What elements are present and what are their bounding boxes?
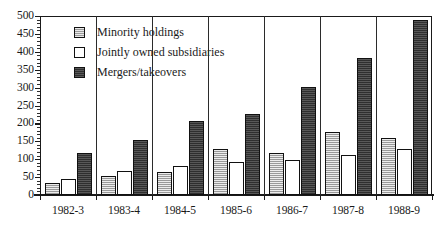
legend-label-minority-holdings: Minority holdings [97, 25, 184, 39]
bar-mergers-1985-6 [245, 114, 260, 195]
legend-label-mergers-takeovers: Mergers/takeovers [97, 65, 186, 79]
x-group-label: 1987-8 [320, 204, 376, 216]
bar-mergers-1983-4 [133, 140, 148, 195]
legend-item-mergers-takeovers: Mergers/takeovers [74, 64, 304, 83]
x-group-label: 1982-3 [40, 204, 96, 216]
bar-jointly-1982-3 [61, 179, 76, 195]
bar-mergers-1982-3 [77, 153, 92, 195]
legend-swatch-minority-holdings [74, 27, 85, 38]
x-group-label: 1988-9 [376, 204, 432, 216]
group-divider [320, 16, 321, 195]
x-group-label: 1983-4 [96, 204, 152, 216]
bar-minority-1988-9 [381, 138, 396, 195]
bar-mergers-1984-5 [189, 121, 204, 195]
legend-swatch-mergers-takeovers [74, 67, 85, 78]
bar-mergers-1987-8 [357, 58, 372, 195]
bar-jointly-1983-4 [117, 171, 132, 195]
group-divider [264, 16, 265, 195]
bar-jointly-1987-8 [341, 155, 356, 195]
group-divider [208, 16, 209, 195]
group-divider [376, 16, 377, 195]
bar-minority-1985-6 [213, 149, 228, 195]
bar-minority-1983-4 [101, 176, 116, 195]
legend-swatch-jointly-owned-subsidiaries [74, 47, 85, 58]
legend-item-jointly-owned-subsidiaries: Jointly owned subsidiaries [74, 44, 304, 63]
legend-item-minority-holdings: Minority holdings [74, 24, 304, 43]
bar-minority-1987-8 [325, 132, 340, 195]
bar-minority-1982-3 [45, 183, 60, 195]
bar-minority-1984-5 [157, 172, 172, 195]
bar-jointly-1984-5 [173, 166, 188, 195]
bar-jointly-1988-9 [397, 149, 412, 195]
bar-mergers-1988-9 [413, 20, 428, 195]
bar-jointly-1986-7 [285, 160, 300, 195]
legend-label-jointly-owned-subsidiaries: Jointly owned subsidiaries [97, 45, 224, 59]
x-group-label: 1985-6 [208, 204, 264, 216]
group-divider [152, 16, 153, 195]
bar-chart: 050100150200250300350400450500 1982-3198… [0, 0, 439, 231]
chart-legend: Minority holdings Jointly owned subsidia… [74, 24, 304, 84]
bar-jointly-1985-6 [229, 162, 244, 195]
bar-minority-1986-7 [269, 153, 284, 195]
bar-mergers-1986-7 [301, 87, 316, 195]
x-group-label: 1986-7 [264, 204, 320, 216]
group-divider [96, 16, 97, 195]
x-group-label: 1984-5 [152, 204, 208, 216]
